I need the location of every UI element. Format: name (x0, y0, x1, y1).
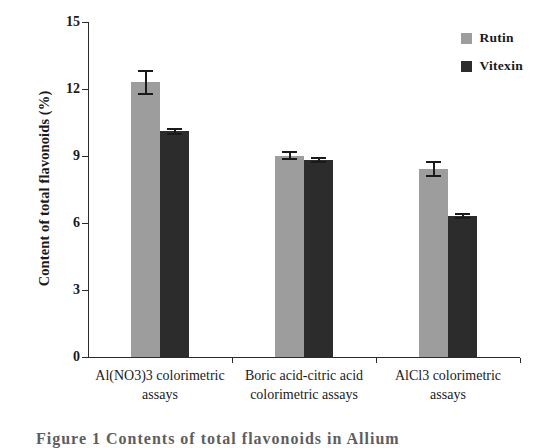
error-bar-cap-top (138, 70, 153, 72)
figure-caption: Figure 1 Contents of total flavonoids in… (36, 430, 516, 448)
y-tick-mark (82, 22, 88, 23)
y-tick-label: 6 (73, 214, 80, 232)
legend-label-vitexin: Vitexin (479, 58, 523, 74)
bar-rutin-group-1 (131, 82, 160, 356)
error-bar-cap-top (282, 151, 297, 153)
bar-vitexin-group-2 (304, 160, 333, 356)
x-tick-mark (520, 358, 521, 363)
y-axis-title: Content of total flavonoids (%) (36, 49, 53, 329)
x-tick-mark (232, 358, 233, 363)
error-bar-cap-top (455, 213, 470, 215)
y-tick-label: 3 (73, 281, 80, 299)
legend-swatch-rutin (461, 33, 472, 44)
error-bar-cap-bottom (282, 158, 297, 160)
error-bar-cap-bottom (426, 175, 441, 177)
y-tick-mark (82, 223, 88, 224)
y-tick-label: 0 (73, 348, 80, 366)
x-category-label-1: Al(NO3)3 colorimetric assays (79, 366, 241, 404)
bar-vitexin-group-3 (448, 216, 477, 357)
bar-rutin-group-2 (275, 156, 304, 357)
y-tick-label: 9 (73, 147, 80, 165)
error-bar-rutin-group-3 (426, 161, 441, 177)
error-bar-vitexin-group-1 (167, 128, 182, 135)
bar-rutin-group-3 (419, 169, 448, 356)
chart-legend: RutinVitexin (461, 30, 523, 74)
error-bar-rutin-group-2 (282, 151, 297, 160)
x-category-label-3: AlCl3 colorimetric assays (367, 366, 529, 404)
error-bar-cap-bottom (455, 217, 470, 219)
y-axis-line (88, 22, 89, 358)
y-tick-label: 15 (66, 13, 80, 31)
x-axis-line (88, 357, 520, 358)
error-bar-cap-top (426, 161, 441, 163)
y-tick-label: 12 (66, 80, 80, 98)
y-tick-mark (82, 290, 88, 291)
error-bar-vitexin-group-2 (311, 157, 326, 163)
bar-vitexin-group-1 (160, 131, 189, 356)
x-tick-mark (376, 358, 377, 363)
legend-item-rutin: Rutin (461, 30, 523, 46)
error-bar-cap-bottom (311, 161, 326, 163)
legend-item-vitexin: Vitexin (461, 58, 523, 74)
error-bar-cap-top (167, 128, 182, 130)
error-bar-rutin-group-1 (138, 70, 153, 95)
error-bar-cap-bottom (167, 133, 182, 135)
x-category-label-2: Boric acid-citric acid colorimetric assa… (223, 366, 385, 404)
error-bar-stem (145, 70, 147, 95)
error-bar-cap-bottom (138, 93, 153, 95)
y-tick-mark (82, 89, 88, 90)
error-bar-cap-top (311, 157, 326, 159)
y-tick-mark (82, 156, 88, 157)
legend-label-rutin: Rutin (479, 30, 514, 46)
plot-area: 03691215 (88, 22, 520, 358)
y-tick-mark (82, 357, 88, 358)
legend-swatch-vitexin (461, 61, 472, 72)
error-bar-vitexin-group-3 (455, 213, 470, 220)
